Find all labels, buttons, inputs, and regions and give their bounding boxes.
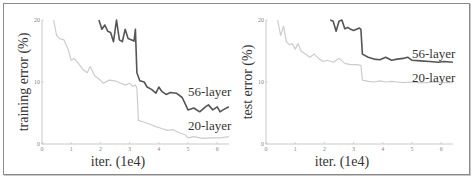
legend-label-56-layer: 56-layer [188,84,232,99]
x-tick-label: 1 [70,146,73,152]
y-tick-label: 20 [34,17,40,23]
legend-label-20-layer: 20-layer [188,118,232,133]
figure-canvas: 012345601020iter. (1e4)training error (%… [0,0,473,179]
y-tick-label: 0 [37,141,40,147]
y-axis-label: test error (%) [240,44,256,119]
x-tick-label: 1 [294,146,297,152]
x-tick-label: 5 [187,146,190,152]
x-axis-label: iter. (1e4) [315,154,370,170]
y-tick-label: 10 [34,79,40,85]
x-tick-label: 4 [157,146,160,152]
x-tick-label: 2 [323,146,326,152]
y-tick-label: 0 [261,141,264,147]
legend-label-56-layer: 56-layer [412,46,456,61]
y-tick-label: 20 [258,17,264,23]
x-tick-label: 2 [99,146,102,152]
y-tick-label: 10 [258,79,264,85]
x-tick-label: 5 [411,146,414,152]
x-tick-label: 6 [440,146,443,152]
y-axis-label: training error (%) [16,32,32,131]
x-tick-label: 0 [265,146,268,152]
x-axis-label: iter. (1e4) [91,154,146,170]
x-tick-label: 4 [381,146,384,152]
x-tick-label: 3 [352,146,355,152]
legend-label-20-layer: 20-layer [412,70,456,85]
x-tick-label: 3 [128,146,131,152]
x-tick-label: 6 [216,146,219,152]
x-tick-label: 0 [41,146,44,152]
